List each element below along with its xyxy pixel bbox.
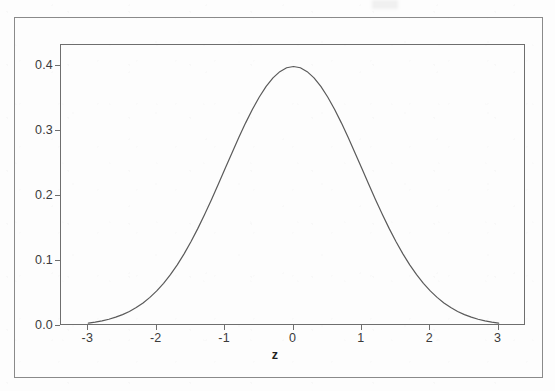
x-tick-label: -1: [218, 331, 230, 345]
x-tick-label: 0: [289, 331, 296, 345]
figure-root: 0.00.10.20.30.4 -3-2-10123 z: [0, 0, 555, 391]
y-tick-mark: [55, 325, 60, 326]
x-tick-mark: [498, 325, 499, 330]
x-tick-mark: [361, 325, 362, 330]
x-tick-mark: [224, 325, 225, 330]
x-tick-label: -2: [150, 331, 162, 345]
x-tick-mark: [87, 325, 88, 330]
x-tick-label: -3: [82, 331, 94, 345]
x-tick-label: 3: [494, 331, 501, 345]
x-tick-mark: [293, 325, 294, 330]
x-tick-label: 2: [426, 331, 433, 345]
x-axis-title: z: [272, 348, 279, 362]
y-tick-mark: [55, 130, 60, 131]
y-tick-mark: [55, 260, 60, 261]
x-tick-label: 1: [357, 331, 364, 345]
x-axis-tick-labels: -3-2-10123: [0, 0, 555, 391]
x-tick-mark: [429, 325, 430, 330]
y-tick-mark: [55, 195, 60, 196]
y-tick-mark: [55, 65, 60, 66]
x-tick-mark: [156, 325, 157, 330]
